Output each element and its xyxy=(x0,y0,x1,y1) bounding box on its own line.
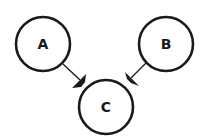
arrowhead-icon xyxy=(125,72,139,86)
node-b[interactable]: B xyxy=(139,17,193,71)
node-a[interactable]: A xyxy=(16,17,70,71)
node-a-label: A xyxy=(38,36,49,52)
edge-line xyxy=(63,64,80,80)
edge-line xyxy=(131,62,147,78)
edge-a-to-c xyxy=(63,64,86,88)
dag-diagram: A B C xyxy=(0,0,206,140)
node-c-label: C xyxy=(101,99,111,115)
node-b-label: B xyxy=(161,36,172,52)
arrowhead-icon xyxy=(72,74,86,88)
edge-b-to-c xyxy=(125,62,147,86)
node-c[interactable]: C xyxy=(79,80,133,134)
